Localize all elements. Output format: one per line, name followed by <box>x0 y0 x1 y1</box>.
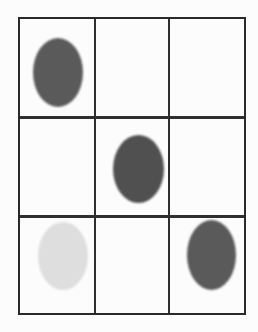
oval-r2-c2 <box>187 220 236 290</box>
grid-line-horizontal-1 <box>20 116 244 119</box>
grid-line-horizontal-2 <box>20 215 244 218</box>
grid-line-vertical-2 <box>168 19 170 313</box>
oval-r2-c0-faint <box>38 222 88 290</box>
oval-r1-c1 <box>113 135 164 203</box>
oval-r0-c0 <box>33 38 83 107</box>
grid-line-vertical-1 <box>94 19 96 313</box>
